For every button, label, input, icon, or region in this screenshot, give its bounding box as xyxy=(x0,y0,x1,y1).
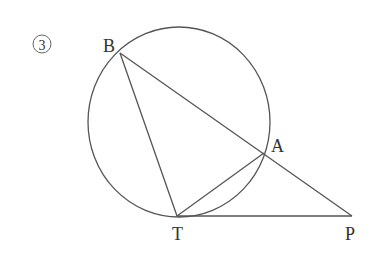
label-P: P xyxy=(345,224,355,244)
label-B: B xyxy=(103,36,115,56)
label-T: T xyxy=(172,224,183,244)
label-A: A xyxy=(271,136,284,156)
circle xyxy=(88,27,270,217)
segment-BT xyxy=(120,53,177,216)
segment-BP xyxy=(120,53,352,216)
geometry-figure: 3 B A T P xyxy=(0,0,378,254)
figure-number: 3 xyxy=(39,38,46,53)
diagram-svg: 3 B A T P xyxy=(0,0,378,254)
